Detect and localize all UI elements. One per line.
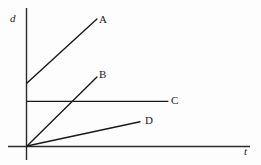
- y-axis-label: d: [10, 13, 16, 24]
- plot-canvas: [0, 0, 261, 165]
- series-line-a: [27, 19, 97, 83]
- series-label-d: D: [145, 115, 153, 126]
- x-axis-label: t: [244, 146, 247, 157]
- series-label-a: A: [99, 14, 107, 25]
- series-label-c: C: [171, 95, 178, 106]
- series-label-b: B: [99, 69, 106, 80]
- distance-time-graph-figure: d t A B C D: [0, 0, 261, 165]
- series-line-b: [27, 77, 97, 146]
- series-line-d: [27, 122, 140, 146]
